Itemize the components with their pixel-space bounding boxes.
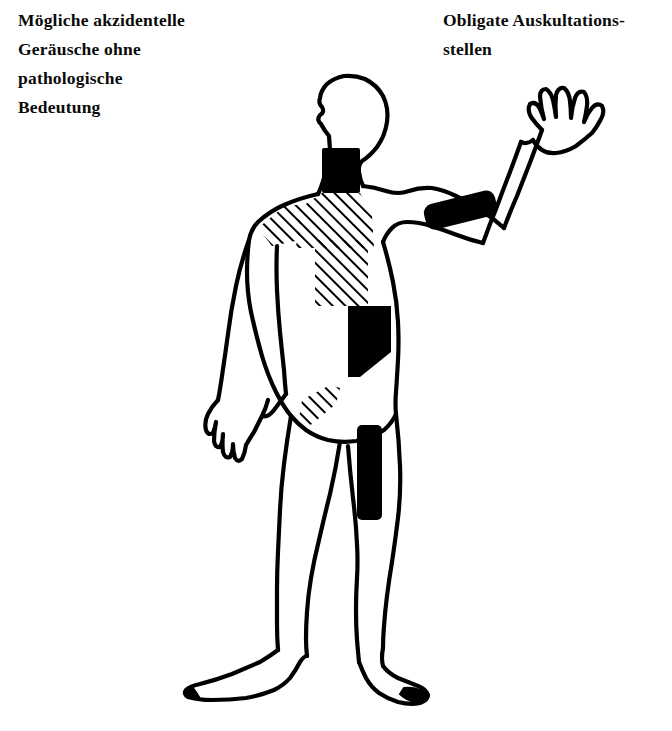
left-arm-inner (277, 246, 287, 394)
leg-left-inner (306, 442, 340, 656)
left-arm-outer (218, 240, 249, 400)
thigh-femoral-marker (357, 425, 382, 520)
right-hand-open (521, 88, 603, 153)
foot-left-toe-mark (185, 688, 199, 698)
neck-carotid-marker (322, 148, 360, 193)
leg-right-outer (383, 414, 400, 648)
chest-hatch-marker (310, 236, 374, 312)
left-hand (205, 394, 286, 461)
groin-hatch-marker (292, 380, 348, 438)
foot-left (185, 650, 307, 700)
diagram-page: Mögliche akzidentelle Geräusche ohne pat… (0, 0, 672, 731)
human-body-figure (0, 0, 672, 731)
precordium-heart-marker (348, 306, 391, 377)
body-outline-group (185, 76, 603, 704)
leg-left-outer (277, 416, 291, 650)
